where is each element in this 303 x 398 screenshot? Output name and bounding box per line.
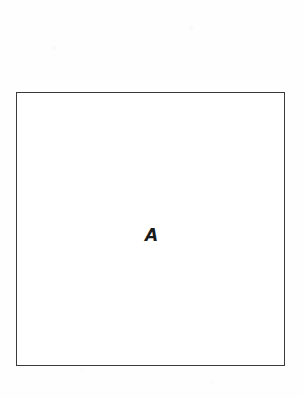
rectangle-label-a: A — [0, 227, 303, 244]
figure-canvas: A — [0, 0, 303, 398]
